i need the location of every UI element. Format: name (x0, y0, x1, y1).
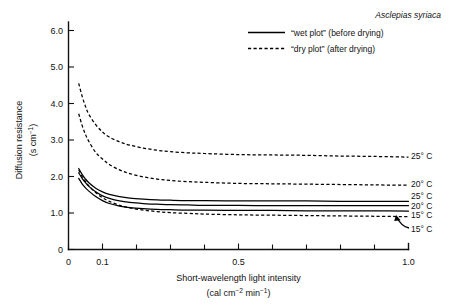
y-tick-label-5: 5.0 (50, 62, 63, 72)
legend-species-name: Asclepias syriaca (374, 10, 441, 20)
y-unit-suffix: ) (28, 124, 38, 127)
series-end-label-dry-20: 20° C (411, 179, 432, 189)
y-axis-title-line1: Diffusion resistance (14, 101, 24, 179)
x-unit-mid: min (243, 288, 260, 298)
x-unit-suffix: ) (267, 288, 270, 298)
y-tick-label-2: 2.0 (50, 172, 63, 182)
y-tick-label-4: 4.0 (50, 99, 63, 109)
x-tick-label-0.1: 0.1 (96, 257, 109, 267)
series-end-label-dry-15: 15° C (411, 224, 432, 234)
x-axis-title-line1: Short-wavelength light intensity (176, 273, 301, 283)
x-tick-label-1.0: 1.0 (402, 257, 415, 267)
y-tick-label-6: 6.0 (50, 26, 63, 36)
y-tick-label-1: 1.0 (50, 208, 63, 218)
x-tick-label-0: 0 (66, 257, 71, 267)
series-end-label-dry-25: 25° C (411, 151, 432, 161)
legend-label-dry-plot: “dry plot” (after drying) (291, 44, 375, 54)
y-unit-prefix: (s cm (28, 134, 38, 156)
y-tick-label-3: 3.0 (50, 135, 63, 145)
x-unit-prefix: (cal cm (207, 288, 236, 298)
series-end-label-wet-25: 25° C (411, 191, 432, 201)
x-tick-label-0.5: 0.5 (232, 257, 245, 267)
diffusion-resistance-chart: 0 1.0 2.0 3.0 4.0 5.0 6.0 0 0.1 0.5 1.0 … (0, 0, 453, 304)
y-tick-label-0: 0 (58, 245, 63, 255)
legend-label-wet-plot: “wet plot” (before drying) (291, 28, 384, 38)
series-end-label-wet-15: 15° C (411, 210, 432, 220)
